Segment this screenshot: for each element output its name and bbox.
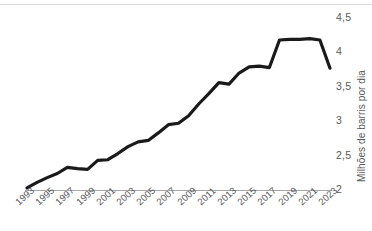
y-tick-label: 3	[336, 114, 342, 126]
chart-container: 22,533,544,5 199319951997199920012003200…	[0, 0, 372, 231]
y-tick-label: 4	[336, 45, 342, 57]
y-tick-label: 4,5	[336, 11, 351, 23]
y-tick-label: 3,5	[336, 80, 351, 92]
y-tick-label: 2,5	[336, 149, 351, 161]
y-axis-title: Milhões de barris por dia	[356, 70, 367, 182]
data-series-line	[27, 39, 330, 188]
